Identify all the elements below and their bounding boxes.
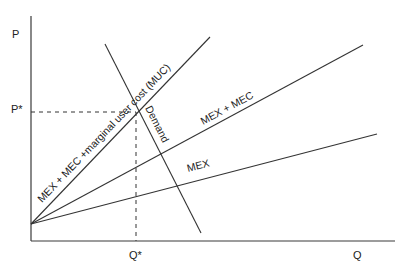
x-axis-label: Q bbox=[353, 249, 362, 261]
curve-mex-label: MEX bbox=[185, 157, 210, 174]
curve-mex-mec-muc-label: MEX + MEC +marginal user cost (MUC) bbox=[35, 61, 173, 204]
diagram-canvas: P P* Q* Q MEX + MEC +marginal user cost … bbox=[0, 0, 406, 271]
curve-demand-label: Demand bbox=[143, 103, 172, 144]
p-star-label: P* bbox=[11, 103, 23, 115]
curve-mex-mec-muc bbox=[31, 37, 210, 224]
q-star-label: Q* bbox=[129, 249, 143, 261]
curve-mex-mec bbox=[31, 45, 363, 224]
y-axis-label: P bbox=[12, 28, 19, 40]
